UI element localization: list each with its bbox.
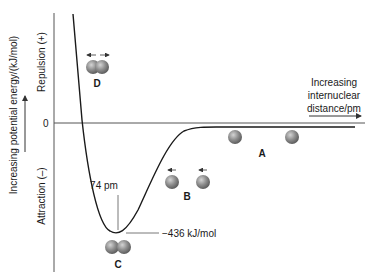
state-c-atom-1 <box>105 240 119 254</box>
x-axis-label-line1: Increasing <box>311 77 357 88</box>
state-b-label: B <box>183 191 190 202</box>
state-a-label: A <box>258 148 265 159</box>
state-c-atom-2 <box>117 240 131 254</box>
state-a-atom-1 <box>228 130 242 144</box>
x-axis-label-line3: distance/pm <box>307 103 361 114</box>
x-axis-label-line2: internuclear <box>308 90 361 101</box>
repulsion-label: Repulsion (+) <box>36 32 47 92</box>
state-a-atom-2 <box>285 130 299 144</box>
atom-icon <box>95 60 109 74</box>
bond-length-label: 74 pm <box>90 180 118 191</box>
y-axis-label: Increasing potential energy/(kJ/mol) <box>8 36 19 194</box>
bond-energy-label: −436 kJ/mol <box>162 228 216 239</box>
potential-energy-diagram: Increasing potential energy/(kJ/mol) Rep… <box>0 0 371 279</box>
state-d-molecule <box>86 55 109 74</box>
state-d-label: D <box>93 78 100 89</box>
state-b-atom-1 <box>165 175 179 189</box>
zero-label: 0 <box>43 118 49 129</box>
attraction-label: Attraction (–) <box>36 167 47 224</box>
state-c-label: C <box>114 259 121 270</box>
state-b-atom-2 <box>196 175 210 189</box>
